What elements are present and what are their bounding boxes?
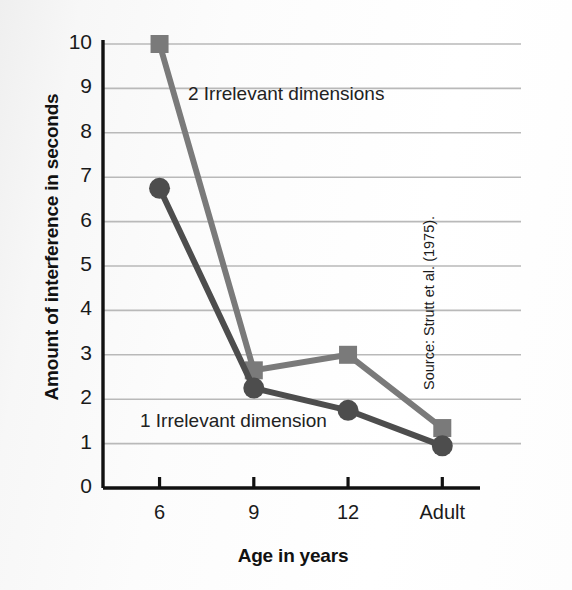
source-citation: Source: Strutt et al. (1975).	[421, 140, 437, 390]
series-marker-square	[433, 419, 451, 437]
x-axis-tick-label: 9	[209, 501, 299, 524]
y-axis-tick-label: 10	[52, 30, 92, 54]
series-marker-square	[339, 346, 357, 364]
series-marker-circle	[432, 435, 453, 456]
series-line	[160, 188, 443, 446]
y-axis-title: Amount of interference in seconds	[41, 67, 63, 427]
y-axis-tick-label: 0	[52, 474, 92, 498]
x-axis-title: Age in years	[103, 545, 483, 567]
x-axis-tick-label: 12	[303, 501, 393, 524]
figure-chart: 012345678910 6912Adult Amount of interfe…	[0, 0, 572, 590]
series-label-two-irrelevant-dimensions: 2 Irrelevant dimensions	[188, 83, 384, 105]
series-marker-circle	[149, 178, 170, 199]
series-marker-circle	[243, 378, 264, 399]
y-axis-tick-label: 1	[52, 430, 92, 454]
series-label-one-irrelevant-dimension: 1 Irrelevant dimension	[140, 410, 327, 432]
series-marker-circle	[338, 400, 359, 421]
series-marker-square	[151, 35, 169, 53]
x-axis-tick-label: 6	[115, 501, 205, 524]
x-axis-tick-label: Adult	[397, 501, 487, 524]
